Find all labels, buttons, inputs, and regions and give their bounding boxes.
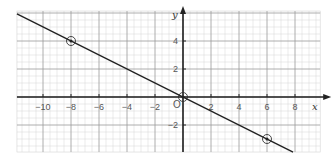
y-axis-label: y [171,9,178,20]
coordinate-plane: −10−8−6−4−2246842−2 x y O [0,0,336,162]
x-tick-label: 4 [236,102,241,112]
origin-label: O [173,99,181,110]
x-tick-label: −2 [150,102,160,112]
x-tick-label: −10 [35,102,50,112]
x-tick-label: −8 [66,102,76,112]
y-tick-label: 2 [173,64,178,74]
x-tick-label: 8 [292,102,297,112]
minor-grid [17,11,320,152]
y-tick-label: 4 [173,36,178,46]
x-tick-label: 6 [264,102,269,112]
x-axis-label: x [312,101,318,112]
major-grid [17,11,320,152]
x-tick-label: −6 [94,102,104,112]
x-tick-label: −4 [122,102,132,112]
y-tick-label: −2 [168,120,178,130]
